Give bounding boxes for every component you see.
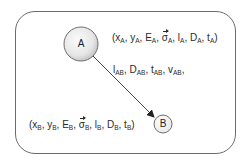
vector-sigma-a: σ — [162, 32, 168, 44]
vector-sigma-b: σ — [79, 119, 85, 131]
node-a-label: A — [73, 38, 89, 49]
node-b-attributes: (xB, yB, EB, σB, lB, DB, tB) — [29, 119, 135, 134]
edge-ab-attributes: lAB, DAB, tAB, vAB, — [113, 64, 184, 79]
node-b-label: B — [156, 118, 170, 129]
diagram-canvas — [0, 0, 247, 164]
node-a-attributes: (xA, yA, EA, σA, lA, DA, tA) — [112, 32, 218, 47]
